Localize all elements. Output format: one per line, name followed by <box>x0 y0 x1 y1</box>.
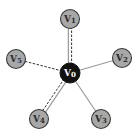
node-v0: V0 <box>60 63 80 83</box>
node-label: V1 <box>63 14 76 25</box>
node-label: V0 <box>63 68 76 79</box>
node-v5: V5 <box>7 50 26 69</box>
node-label: V3 <box>94 114 107 125</box>
nodes-layer: V0V1V2V3V4V5 <box>7 10 132 129</box>
node-v4: V4 <box>30 110 49 129</box>
node-label: V2 <box>115 53 128 64</box>
node-v2: V2 <box>113 49 132 68</box>
node-label: V5 <box>9 54 22 65</box>
node-label: V4 <box>32 114 45 125</box>
node-v1: V1 <box>61 10 80 29</box>
star-graph-diagram: V0V1V2V3V4V5 <box>0 0 140 138</box>
node-v3: V3 <box>92 110 111 129</box>
